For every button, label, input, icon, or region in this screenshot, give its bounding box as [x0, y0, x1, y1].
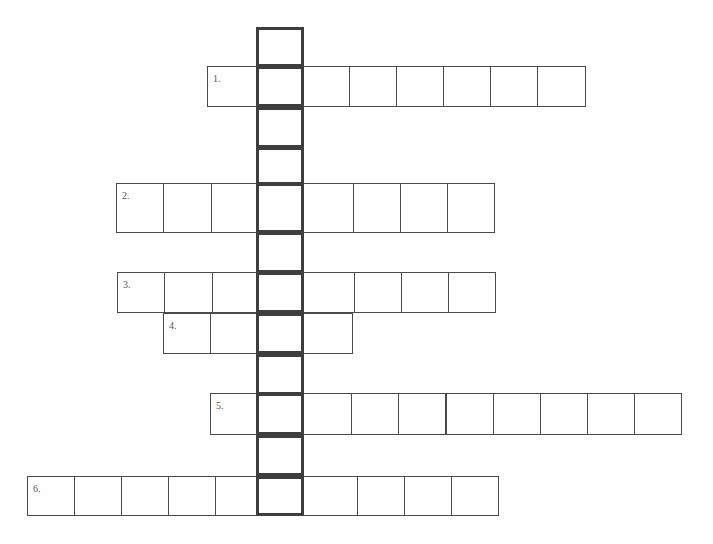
- answer-cell[interactable]: [212, 272, 257, 313]
- answer-cell[interactable]: [401, 272, 449, 313]
- clue-number: 3.: [123, 279, 131, 290]
- answer-cell[interactable]: [215, 476, 257, 516]
- answer-cell[interactable]: [303, 393, 352, 435]
- answer-cell[interactable]: 2.: [116, 183, 164, 233]
- answer-cell[interactable]: 3.: [117, 272, 165, 313]
- clue-number: 1.: [213, 73, 221, 84]
- answer-cell[interactable]: [404, 476, 452, 516]
- answer-cell[interactable]: [351, 393, 399, 435]
- answer-cell[interactable]: [303, 313, 353, 354]
- answer-cell[interactable]: [163, 183, 211, 233]
- answer-cell[interactable]: [396, 66, 444, 107]
- answer-cell[interactable]: 5.: [210, 393, 257, 435]
- answer-cell[interactable]: 6.: [27, 476, 75, 516]
- answer-cell[interactable]: 1.: [207, 66, 257, 107]
- hidden-word-cell[interactable]: [256, 272, 304, 313]
- hidden-word-cell[interactable]: [256, 147, 304, 185]
- answer-cell[interactable]: [448, 272, 496, 313]
- answer-cell[interactable]: [447, 183, 495, 233]
- clue-number: 6.: [33, 483, 41, 494]
- hidden-word-cell[interactable]: [256, 232, 304, 273]
- answer-cell[interactable]: [446, 393, 494, 435]
- answer-cell[interactable]: 4.: [163, 313, 211, 354]
- hidden-word-cell[interactable]: [256, 393, 304, 435]
- clue-number: 5.: [216, 400, 224, 411]
- hidden-word-cell[interactable]: [256, 183, 304, 233]
- answer-cell[interactable]: [164, 272, 212, 313]
- answer-cell[interactable]: [451, 476, 499, 516]
- hidden-word-cell[interactable]: [256, 27, 304, 67]
- answer-cell[interactable]: [398, 393, 446, 435]
- answer-cell[interactable]: [634, 393, 682, 435]
- answer-cell[interactable]: [303, 272, 355, 313]
- answer-cell[interactable]: [211, 183, 257, 233]
- clue-number: 4.: [169, 320, 177, 331]
- answer-cell[interactable]: [303, 183, 354, 233]
- answer-cell[interactable]: [121, 476, 169, 516]
- answer-cell[interactable]: [357, 476, 405, 516]
- answer-cell[interactable]: [537, 66, 585, 107]
- answer-cell[interactable]: [303, 476, 358, 516]
- answer-cell[interactable]: [587, 393, 635, 435]
- answer-cell[interactable]: [490, 66, 538, 107]
- hidden-word-cell[interactable]: [256, 354, 304, 395]
- answer-cell[interactable]: [210, 313, 257, 354]
- hidden-word-cell[interactable]: [256, 476, 304, 516]
- answer-cell[interactable]: [493, 393, 541, 435]
- hidden-word-cell[interactable]: [256, 66, 304, 107]
- clue-number: 2.: [122, 190, 130, 201]
- answer-cell[interactable]: [443, 66, 491, 107]
- answer-cell[interactable]: [540, 393, 588, 435]
- hidden-word-cell[interactable]: [256, 107, 304, 148]
- answer-cell[interactable]: [74, 476, 122, 516]
- answer-cell[interactable]: [349, 66, 397, 107]
- answer-cell[interactable]: [303, 66, 350, 107]
- answer-cell[interactable]: [400, 183, 448, 233]
- answer-cell[interactable]: [353, 183, 401, 233]
- answer-cell[interactable]: [168, 476, 216, 516]
- hidden-word-cell[interactable]: [256, 313, 304, 354]
- answer-cell[interactable]: [354, 272, 402, 313]
- hidden-word-cell[interactable]: [256, 435, 304, 476]
